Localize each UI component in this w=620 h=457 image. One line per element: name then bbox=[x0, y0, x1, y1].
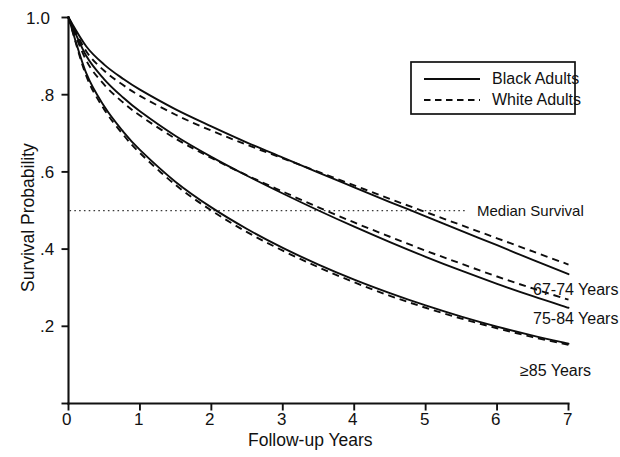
y-tick-label-1: 1.0 bbox=[26, 10, 50, 27]
series-label-75-84: 75-84 Years bbox=[533, 311, 618, 327]
x-tick-label-5: 5 bbox=[420, 411, 430, 428]
series-label-85-plus: ≥85 Years bbox=[520, 363, 591, 379]
x-tick-label-4: 4 bbox=[348, 411, 358, 428]
legend-label-white-adults: White Adults bbox=[492, 92, 581, 108]
x-tick-label-3: 3 bbox=[277, 411, 287, 428]
x-tick-label-6: 6 bbox=[491, 411, 501, 428]
y-tick-label-06: .6 bbox=[40, 164, 54, 181]
y-tick-label-02: .2 bbox=[40, 318, 54, 335]
legend-label-black-adults: Black Adults bbox=[492, 71, 579, 87]
series-label-67-74: 67-74 Years bbox=[533, 282, 618, 298]
y-axis-title: Survival Probability bbox=[20, 143, 38, 292]
x-tick-label-7: 7 bbox=[563, 411, 573, 428]
chart-canvas bbox=[0, 0, 620, 457]
curve-white-adults-75-84-years bbox=[69, 18, 569, 300]
x-tick-label-0: 0 bbox=[62, 411, 72, 428]
y-tick-label-04: .4 bbox=[40, 241, 54, 258]
curve-black-adults-67-74-years bbox=[69, 18, 569, 275]
median-survival-label: Median Survival bbox=[477, 203, 584, 218]
y-tick-label-08: .8 bbox=[40, 87, 54, 104]
x-axis-title: Follow-up Years bbox=[248, 432, 373, 450]
curve-white-adults-67-74-years bbox=[69, 18, 569, 265]
x-tick-label-1: 1 bbox=[134, 411, 144, 428]
chart-figure: 1.0 .8 .6 .4 .2 0 1 2 3 4 5 6 7 Follow-u… bbox=[0, 0, 620, 457]
x-tick-label-2: 2 bbox=[205, 411, 215, 428]
